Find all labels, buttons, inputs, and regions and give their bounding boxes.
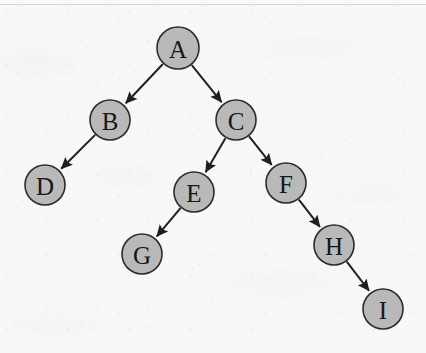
tree-diagram-canvas: ABCDEFGHI bbox=[0, 0, 426, 353]
node-circle-c[interactable] bbox=[216, 100, 256, 140]
node-b[interactable]: B bbox=[90, 100, 130, 140]
edge-h-to-i bbox=[347, 262, 369, 291]
edge-c-to-f bbox=[249, 136, 272, 165]
node-a[interactable]: A bbox=[157, 27, 199, 69]
node-h[interactable]: H bbox=[314, 225, 354, 265]
node-c[interactable]: C bbox=[216, 100, 256, 140]
node-circle-g[interactable] bbox=[122, 234, 162, 274]
node-circle-h[interactable] bbox=[314, 225, 354, 265]
node-d[interactable]: D bbox=[25, 165, 65, 205]
edge-e-to-g bbox=[157, 208, 181, 236]
node-i[interactable]: I bbox=[363, 289, 403, 329]
graph-svg: ABCDEFGHI bbox=[0, 0, 426, 353]
edge-a-to-c bbox=[192, 65, 222, 102]
node-circle-i[interactable] bbox=[363, 289, 403, 329]
node-circle-b[interactable] bbox=[90, 100, 130, 140]
edge-b-to-d bbox=[61, 135, 95, 169]
node-e[interactable]: E bbox=[174, 172, 214, 212]
node-circle-d[interactable] bbox=[25, 165, 65, 205]
edge-a-to-b bbox=[126, 64, 163, 103]
node-circle-e[interactable] bbox=[174, 172, 214, 212]
nodes-layer: ABCDEFGHI bbox=[25, 27, 403, 329]
edge-c-to-e bbox=[206, 138, 226, 172]
node-f[interactable]: F bbox=[266, 163, 306, 203]
node-circle-a[interactable] bbox=[157, 27, 199, 69]
edge-f-to-h bbox=[299, 200, 320, 227]
node-circle-f[interactable] bbox=[266, 163, 306, 203]
node-g[interactable]: G bbox=[122, 234, 162, 274]
